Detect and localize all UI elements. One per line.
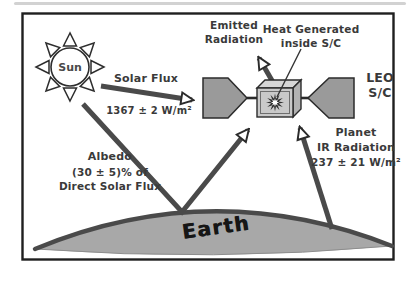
leo-sc-line2: S/C xyxy=(366,85,394,100)
planet-ir-line1: Planet xyxy=(311,126,401,141)
leo-sc-label: LEO S/C xyxy=(366,70,394,100)
thermal-environment-diagram: Sun Solar Flux 1367 ± 2 W/m² Emitted Rad… xyxy=(0,0,415,284)
planet-ir-line2: IR Radiation xyxy=(311,141,401,156)
planet-ir-value: 237 ± 21 W/m² xyxy=(311,155,401,170)
solar-flux-label: Solar Flux xyxy=(114,72,178,86)
albedo-line2: (30 ± 5)% of xyxy=(59,165,161,180)
solar-flux-value: 1367 ± 2 W/m² xyxy=(106,104,192,118)
leo-sc-line1: LEO xyxy=(366,70,394,85)
heat-generated-label: Heat Generated inside S/C xyxy=(263,23,360,50)
planet-ir-label: Planet IR Radiation 237 ± 21 W/m² xyxy=(311,126,401,170)
albedo-line3: Direct Solar Flux xyxy=(59,179,161,194)
albedo-line1: Albedo xyxy=(59,150,161,165)
emitted-radiation-line2: Radiation xyxy=(205,32,263,46)
heat-generated-line2: inside S/C xyxy=(263,36,360,50)
albedo-label: Albedo (30 ± 5)% of Direct Solar Flux xyxy=(59,150,161,194)
sun-label: Sun xyxy=(58,61,82,75)
emitted-radiation-line1: Emitted xyxy=(205,19,263,33)
spacecraft xyxy=(203,78,354,118)
heat-generated-line1: Heat Generated xyxy=(263,23,360,37)
emitted-radiation-label: Emitted Radiation xyxy=(205,19,263,46)
